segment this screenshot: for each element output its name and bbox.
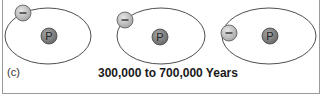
svg-text:P: P [45, 30, 52, 42]
nucleus-2-icon: P [152, 29, 168, 45]
svg-text:P: P [266, 30, 273, 42]
panel-label: (c) [7, 66, 20, 78]
atom-1: P [5, 5, 91, 64]
nucleus-1-icon: P [41, 28, 57, 44]
figure-caption: 300,000 to 700,000 Years [98, 66, 238, 80]
atom-3: P [221, 8, 316, 64]
electron-2-icon [117, 12, 133, 28]
svg-text:P: P [156, 31, 163, 43]
electron-1-icon [15, 5, 31, 21]
atom-diagram: P P P [0, 0, 324, 98]
atom-2: P [117, 8, 205, 64]
nucleus-3-icon: P [262, 28, 278, 44]
electron-3-icon [221, 25, 237, 41]
